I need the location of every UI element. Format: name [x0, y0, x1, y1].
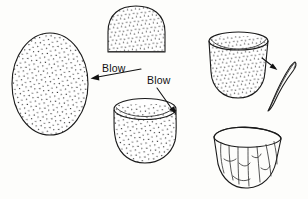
opened-bowl-shape — [110, 99, 180, 167]
whole-egg-stipple — [10, 30, 92, 140]
blow-label-left-text: Blow — [102, 62, 126, 74]
trimmed-cup-shape — [205, 32, 273, 102]
opened-bowl-stipple — [110, 104, 180, 166]
shell-sliver-shape — [268, 62, 296, 111]
blow-annotation-left: Blow — [91, 62, 142, 81]
dome-shape — [104, 2, 170, 58]
blow-label-right-text: Blow — [147, 74, 171, 86]
faceted-vessel-shape — [214, 127, 281, 188]
whole-egg-shape — [10, 30, 92, 140]
vessel-sequence-diagram: Blow Blow — [0, 0, 308, 199]
dome-stipple — [104, 2, 170, 58]
figure-root: Blow Blow — [0, 0, 308, 199]
